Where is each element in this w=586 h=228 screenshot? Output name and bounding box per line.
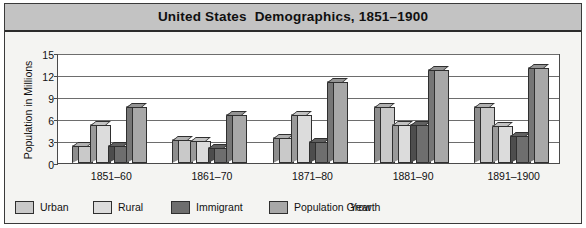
bar-front-face [333, 82, 348, 163]
plot-panel: Population in Millions 03691215 1851–601… [5, 32, 581, 223]
bar [232, 115, 247, 163]
legend-swatch [93, 201, 112, 214]
legend-label: Immigrant [196, 201, 243, 213]
bar [333, 82, 348, 163]
chart-frame: United States Demographics, 1851–1900 Po… [4, 3, 582, 224]
bar [434, 70, 449, 163]
bar-front-face [534, 68, 549, 163]
bar-front-face [132, 107, 147, 163]
y-axis-tick-mark [54, 98, 58, 99]
y-axis-tick-mark [54, 76, 58, 77]
y-axis-tick-mark [54, 164, 58, 165]
y-axis-tick-mark [54, 120, 58, 121]
gridline [58, 76, 559, 77]
chart-screenshot: United States Demographics, 1851–1900 Po… [0, 0, 586, 228]
legend-swatch [15, 201, 34, 214]
x-axis-tick-label: 1871–80 [292, 170, 333, 182]
legend-swatch [269, 201, 288, 214]
legend-label: Urban [40, 201, 69, 213]
y-axis-tick-label: 12 [42, 71, 54, 83]
y-axis-tick-mark [54, 142, 58, 143]
bar [132, 107, 147, 163]
y-axis-title: Population in Millions [22, 45, 34, 175]
chart-title-banner: United States Demographics, 1851–1900 [5, 4, 581, 32]
plot-area: 03691215 [57, 54, 560, 164]
x-axis-tick-label: 1851–60 [91, 170, 132, 182]
x-axis-tick-label: 1891–1900 [487, 170, 540, 182]
x-axis-title: Year [350, 201, 371, 213]
y-axis-tick-label: 6 [48, 115, 54, 127]
legend-swatch [171, 201, 190, 214]
legend-label: Rural [118, 201, 143, 213]
y-axis-tick-label: 3 [48, 137, 54, 149]
x-axis-tick-label: 1861–70 [191, 170, 232, 182]
y-axis-tick-label: 15 [42, 49, 54, 61]
y-axis-tick-label: 9 [48, 93, 54, 105]
bar-front-face [434, 70, 449, 163]
gridline [58, 54, 559, 55]
gridline [58, 98, 559, 99]
x-axis-tick-label: 1881–90 [393, 170, 434, 182]
legend-item-immigrant[interactable]: Immigrant [171, 198, 243, 216]
bar [534, 68, 549, 163]
y-axis-tick-mark [54, 54, 58, 55]
y-axis-tick-label: 0 [48, 159, 54, 171]
legend-item-rural[interactable]: Rural [93, 198, 143, 216]
legend-item-urban[interactable]: Urban [15, 198, 69, 216]
bar-front-face [232, 115, 247, 163]
chart-title: United States Demographics, 1851–1900 [5, 4, 581, 30]
